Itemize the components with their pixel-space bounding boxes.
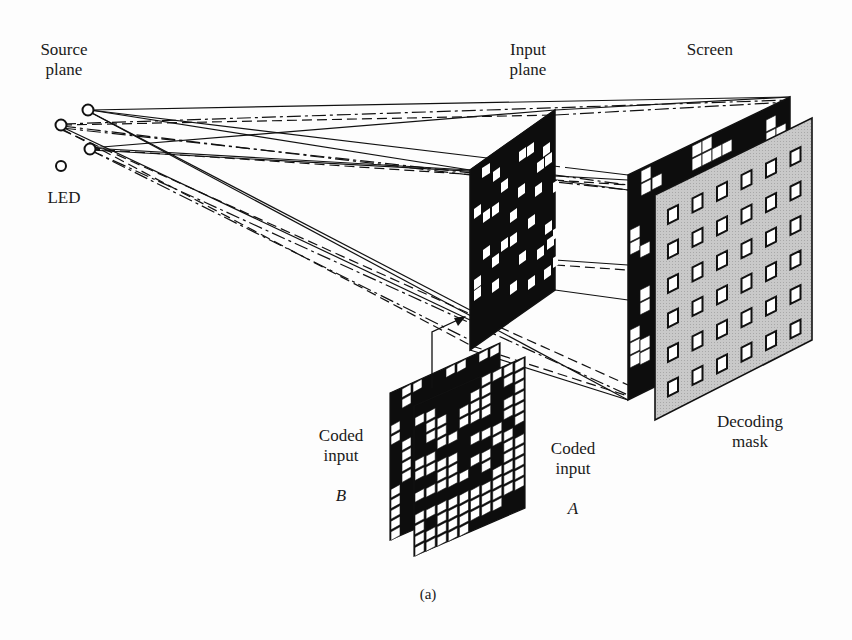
input-plane <box>470 110 565 350</box>
label-source-plane: Source plane <box>24 40 104 80</box>
led-unlit-icon <box>56 161 66 171</box>
label-coded-input-b-letter: B <box>306 486 376 506</box>
label-decoding-mask: Decoding mask <box>700 412 800 452</box>
label-input-plane: Input plane <box>488 40 568 80</box>
label-coded-input-a-text: Coded input <box>538 439 608 479</box>
label-led: LED <box>34 188 94 208</box>
label-coded-input-b: Coded input B <box>306 406 376 526</box>
label-coded-input-a: Coded input A <box>538 419 608 539</box>
source-plane-leds <box>56 105 96 172</box>
label-coded-input-a-letter: A <box>538 499 608 519</box>
led-source-icon <box>56 120 67 131</box>
figure-caption: (a) <box>398 584 458 604</box>
led-source-icon <box>85 144 96 155</box>
diagram-canvas <box>0 0 852 640</box>
optical-diagram: Source plane LED Input plane Screen Deco… <box>0 0 852 640</box>
label-coded-input-b-text: Coded input <box>306 426 376 466</box>
led-source-icon <box>83 105 94 116</box>
label-screen: Screen <box>665 40 755 60</box>
